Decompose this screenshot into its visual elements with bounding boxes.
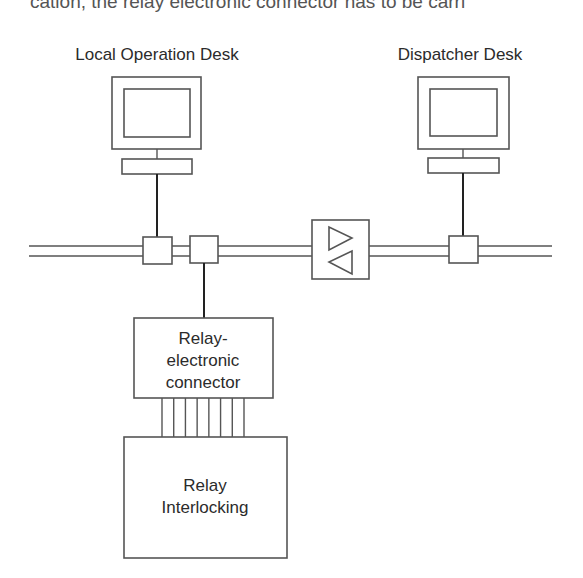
dispatcher-desk-workstation-icon xyxy=(418,77,509,236)
relay-connector-label-line-1: Relay- xyxy=(178,329,227,348)
network-diagram: cation, the relay electronic connector h… xyxy=(0,0,583,578)
local-monitor-screen xyxy=(124,89,190,137)
relay-interlocking: Relay Interlocking xyxy=(124,437,287,558)
local-desk-workstation-icon xyxy=(112,77,201,237)
dispatcher-desk-tap xyxy=(449,236,478,263)
local-desk-label: Local Operation Desk xyxy=(75,45,239,64)
relay-connector-label-line-3: connector xyxy=(166,373,241,392)
relay-connector-tap xyxy=(190,236,218,263)
relay-interlocking-label-line-1: Relay xyxy=(183,476,227,495)
relay-connector-label-line-2: electronic xyxy=(167,351,240,370)
parallel-wire-bundle xyxy=(162,398,244,437)
local-keyboard xyxy=(122,159,192,174)
repeater-box xyxy=(312,220,369,279)
clipped-body-text: cation, the relay electronic connector h… xyxy=(30,0,465,12)
relay-electronic-connector: Relay- electronic connector xyxy=(134,318,273,398)
dispatcher-keyboard xyxy=(428,158,499,173)
dispatcher-desk-label: Dispatcher Desk xyxy=(398,45,523,64)
repeater-amplifier xyxy=(312,220,369,279)
dispatcher-monitor-screen xyxy=(430,89,497,136)
relay-interlocking-label-line-2: Interlocking xyxy=(162,498,249,517)
local-desk-tap xyxy=(143,237,172,264)
